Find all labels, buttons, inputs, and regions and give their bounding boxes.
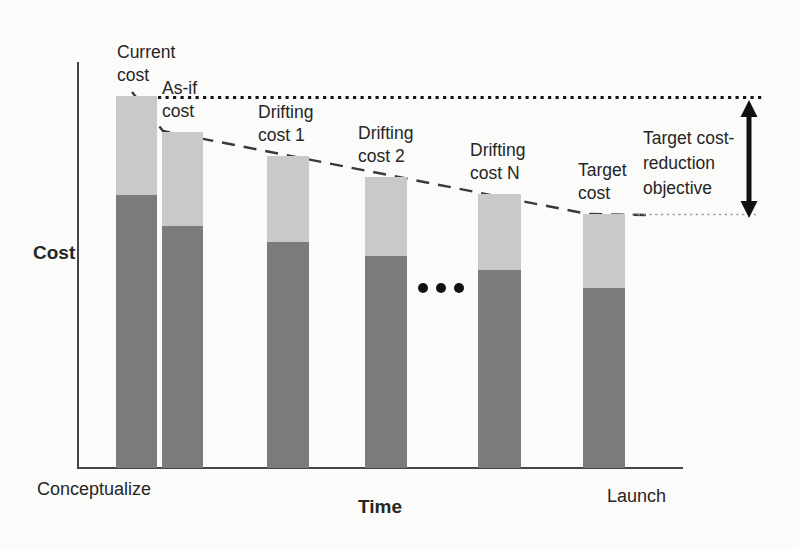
bar-upper-light-segment xyxy=(267,156,309,242)
target-cost-reduction-annotation: Target cost- reduction objective xyxy=(643,126,734,201)
bars-layer: CurrentcostAs-ifcostDriftingcost 1Drifti… xyxy=(0,0,799,549)
continuation-dots xyxy=(418,283,464,293)
bar-label-line: Drifting xyxy=(358,122,413,145)
annotation-line: objective xyxy=(643,176,734,201)
bar-upper-light-segment xyxy=(365,177,407,256)
bar-upper-light-segment xyxy=(116,96,157,195)
bar-lower-dark-segment xyxy=(478,270,521,468)
bar-upper-light-segment xyxy=(478,194,521,270)
bar-label-line: Drifting xyxy=(258,101,313,124)
dot-icon xyxy=(454,283,464,293)
bar-label: Targetcost xyxy=(578,159,627,205)
bar-lower-dark-segment xyxy=(365,256,407,468)
x-axis-start-label: Conceptualize xyxy=(37,479,151,500)
annotation-line: reduction xyxy=(643,151,734,176)
bar-label: Driftingcost 2 xyxy=(358,122,413,168)
x-axis-end-label: Launch xyxy=(607,486,666,507)
target-costing-figure: CurrentcostAs-ifcostDriftingcost 1Drifti… xyxy=(0,0,799,549)
x-axis-label: Time xyxy=(358,496,402,518)
bar-lower-dark-segment xyxy=(583,288,625,468)
bar-label-line: cost xyxy=(162,100,197,123)
bar-label-line: cost xyxy=(578,182,627,205)
bar-lower-dark-segment xyxy=(116,195,157,468)
bar-lower-dark-segment xyxy=(267,242,309,468)
bar-label-line: cost 1 xyxy=(258,124,313,147)
bar-label: Driftingcost N xyxy=(470,139,525,185)
annotation-line: Target cost- xyxy=(643,126,734,151)
bar-label: As-ifcost xyxy=(162,77,197,123)
bar-label-line: Target xyxy=(578,159,627,182)
bar-label-line: Current xyxy=(117,41,175,64)
bar-label-line: As-if xyxy=(162,77,197,100)
dot-icon xyxy=(436,283,446,293)
bar-upper-light-segment xyxy=(583,214,625,288)
bar-label-line: cost N xyxy=(470,162,525,185)
y-axis-label: Cost xyxy=(33,242,75,264)
bar-label-line: Drifting xyxy=(470,139,525,162)
bar-label: Driftingcost 1 xyxy=(258,101,313,147)
bar-lower-dark-segment xyxy=(162,226,203,468)
dot-icon xyxy=(418,283,428,293)
bar-upper-light-segment xyxy=(162,132,203,226)
bar-label-line: cost 2 xyxy=(358,145,413,168)
